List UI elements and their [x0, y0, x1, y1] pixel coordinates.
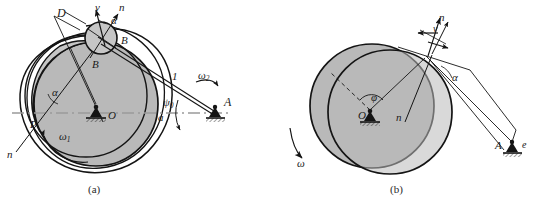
construction-line-D-bracket2	[65, 12, 86, 24]
label-velocity-v-b: v	[433, 24, 437, 34]
label-link-1: 1	[172, 71, 178, 82]
label-normal-n-left: n	[7, 149, 13, 160]
label-normal-n-top: n	[119, 2, 125, 13]
label-omega-2: ω2	[198, 70, 210, 82]
label-point-B-cam: B	[92, 59, 99, 70]
label-center-O-b: O	[358, 110, 366, 121]
caption-a: (a)	[88, 184, 100, 195]
psi0-angle-arc	[176, 100, 180, 130]
label-psi-0: ψ0	[163, 97, 174, 109]
label-point-P: P	[30, 119, 37, 130]
omega-arrow-b	[290, 128, 302, 158]
psi0-symbol: ψ	[163, 96, 170, 108]
label-alpha-contact-b: α	[452, 72, 458, 83]
label-omega-1: ω1	[59, 131, 71, 143]
label-eccentricity-e: e	[522, 140, 526, 150]
label-point-A-b: A	[495, 140, 502, 151]
omega2-subscript: 2	[206, 74, 210, 83]
panel-b-graphics	[290, 18, 522, 174]
label-omega-b: ω	[297, 158, 305, 169]
label-point-D: D	[57, 7, 66, 19]
label-center-O: O	[108, 110, 116, 121]
label-phi-b: φ	[371, 92, 377, 103]
psi0-subscript: 0	[170, 101, 174, 110]
label-distance-a: a	[158, 112, 164, 123]
omega2-symbol: ω	[198, 69, 206, 81]
caption-b: (b)	[390, 184, 403, 195]
label-point-A: A	[224, 96, 231, 108]
eccentric-disc-front	[328, 50, 452, 174]
link-line-b-outer	[470, 70, 516, 130]
label-point-B-roller: B	[121, 35, 128, 46]
figure-canvas: D v n α B B α P n ω1 ω2 1 ψ0 O a A (a) n…	[0, 0, 536, 204]
omega1-subscript: 1	[67, 135, 71, 144]
figure-vector-graphics	[0, 0, 536, 204]
omega1-symbol: ω	[59, 130, 67, 142]
label-normal-n-top-b: n	[439, 12, 445, 23]
pivot-support-A-b	[503, 140, 522, 157]
label-normal-n-mid-b: n	[396, 112, 402, 123]
label-alpha-top: α	[111, 15, 117, 26]
label-alpha-left: α	[52, 87, 58, 98]
label-velocity-v: v	[95, 2, 100, 13]
